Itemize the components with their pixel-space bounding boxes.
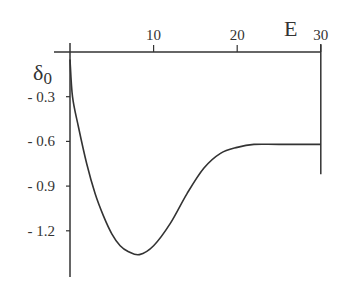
chart: 102030 - 0.3- 0.6- 0.9- 1.2 E δ0: [0, 0, 341, 293]
y-ticks: - 0.3- 0.6- 0.9- 1.2: [28, 89, 71, 239]
x-tick-label: 10: [146, 27, 161, 43]
y-axis-title-main: δ: [33, 60, 43, 85]
y-axis-title-sub: 0: [43, 69, 52, 88]
y-tick-label: - 1.2: [28, 223, 56, 239]
y-tick-label: - 0.9: [28, 178, 56, 194]
x-tick-label: 20: [230, 27, 245, 43]
x-tick-label: 30: [313, 27, 328, 43]
data-line: [70, 59, 321, 254]
y-tick-label: - 0.6: [28, 133, 56, 149]
axes: 102030 - 0.3- 0.6- 0.9- 1.2: [28, 27, 329, 277]
x-ticks: 102030: [146, 27, 328, 52]
y-tick-label: - 0.3: [28, 89, 56, 105]
x-axis-title: E: [284, 16, 297, 41]
y-axis-title: δ0: [33, 60, 52, 88]
